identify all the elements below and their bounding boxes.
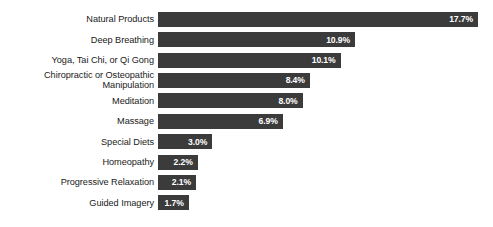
- bar-value-label: 10.9%: [326, 35, 350, 45]
- bar-value-label: 10.1%: [312, 55, 336, 65]
- category-label: Deep Breathing: [0, 35, 158, 45]
- bar-value-label: 17.7%: [449, 14, 473, 24]
- category-label: Natural Products: [0, 14, 158, 24]
- bar-track: 2.2%: [158, 152, 493, 172]
- bar-track: 8.0%: [158, 91, 493, 111]
- bar: 17.7%: [158, 12, 478, 27]
- bar: 6.9%: [158, 114, 283, 129]
- chart-plot-area: Natural Products17.7%Deep Breathing10.9%…: [0, 9, 493, 213]
- bar-value-label: 6.9%: [259, 116, 278, 126]
- bar-value-label: 1.7%: [165, 198, 184, 208]
- category-label: Chiropractic or Osteopathic Manipulation: [0, 70, 158, 90]
- bar-value-label: 2.1%: [172, 177, 191, 187]
- bar-row: Progressive Relaxation2.1%: [0, 172, 493, 192]
- bar-track: 8.4%: [158, 70, 493, 90]
- bar-value-label: 8.4%: [286, 75, 305, 85]
- bar-row: Special Diets3.0%: [0, 131, 493, 151]
- category-label: Massage: [0, 116, 158, 126]
- bar-row: Deep Breathing10.9%: [0, 29, 493, 49]
- category-label: Homeopathy: [0, 157, 158, 167]
- bar: 3.0%: [158, 134, 212, 149]
- bar-track: 17.7%: [158, 9, 493, 29]
- bar-row: Massage6.9%: [0, 111, 493, 131]
- bar-row: Natural Products17.7%: [0, 9, 493, 29]
- bar: 8.0%: [158, 93, 303, 108]
- category-label: Special Diets: [0, 137, 158, 147]
- bar-track: 6.9%: [158, 111, 493, 131]
- bar-value-label: 8.0%: [278, 96, 297, 106]
- category-label: Yoga, Tai Chi, or Qi Gong: [0, 55, 158, 65]
- bar: 2.1%: [158, 175, 196, 190]
- bar-track: 3.0%: [158, 131, 493, 151]
- category-label: Guided Imagery: [0, 198, 158, 208]
- bar: 2.2%: [158, 155, 198, 170]
- bar-row: Meditation8.0%: [0, 91, 493, 111]
- bar-row: Guided Imagery1.7%: [0, 193, 493, 213]
- bar-track: 2.1%: [158, 172, 493, 192]
- bar-row: Yoga, Tai Chi, or Qi Gong10.1%: [0, 50, 493, 70]
- bar-row: Chiropractic or Osteopathic Manipulation…: [0, 70, 493, 90]
- bar-row: Homeopathy2.2%: [0, 152, 493, 172]
- bar-chart: Natural Products17.7%Deep Breathing10.9%…: [0, 0, 493, 227]
- category-label: Progressive Relaxation: [0, 177, 158, 187]
- bar: 10.1%: [158, 53, 341, 68]
- bar-track: 10.9%: [158, 29, 493, 49]
- bar: 8.4%: [158, 73, 310, 88]
- bar: 1.7%: [158, 195, 189, 210]
- category-label: Meditation: [0, 96, 158, 106]
- bar: 10.9%: [158, 32, 355, 47]
- bar-value-label: 2.2%: [174, 157, 193, 167]
- bar-track: 1.7%: [158, 193, 493, 213]
- bar-track: 10.1%: [158, 50, 493, 70]
- bar-value-label: 3.0%: [188, 137, 207, 147]
